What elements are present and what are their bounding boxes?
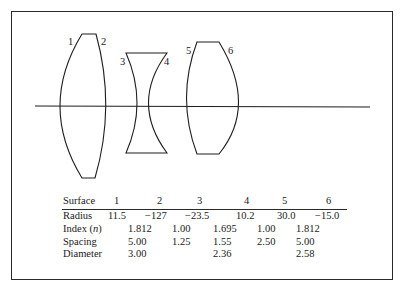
table-cell: 1.00 bbox=[257, 224, 275, 235]
surface-label-3: 3 bbox=[120, 57, 125, 68]
surface-label-5: 5 bbox=[186, 46, 191, 57]
table-cell: 1.812 bbox=[128, 224, 152, 235]
row-label-index: Index (n) bbox=[63, 224, 102, 235]
surface-label-1: 1 bbox=[68, 37, 73, 48]
row-label-diameter: Diameter bbox=[63, 249, 102, 260]
table-cell: 3.00 bbox=[128, 249, 146, 260]
table-header-col: 2 bbox=[157, 196, 162, 207]
table-header-col: 5 bbox=[282, 196, 287, 207]
table-cell: 1.00 bbox=[172, 224, 190, 235]
table-header-label: Surface bbox=[63, 196, 95, 207]
table-cell: 30.0 bbox=[277, 211, 295, 222]
table-cell: 1.695 bbox=[213, 224, 237, 235]
table-cell: 10.2 bbox=[236, 211, 254, 222]
table-header-col: 3 bbox=[197, 196, 202, 207]
table-cell: −23.5 bbox=[185, 211, 209, 222]
table-cell: 2.58 bbox=[296, 249, 314, 260]
surface-label-4: 4 bbox=[164, 57, 169, 68]
table-cell: 2.50 bbox=[257, 237, 275, 248]
table-header-col: 1 bbox=[114, 196, 119, 207]
row-label-radius: Radius bbox=[63, 211, 92, 222]
surface-label-2: 2 bbox=[101, 37, 106, 48]
lens-diagram bbox=[0, 0, 404, 288]
lens-3-biconvex bbox=[187, 42, 239, 154]
table-header-col: 4 bbox=[244, 196, 249, 207]
row-label-spacing: Spacing bbox=[63, 237, 97, 248]
table-header-col: 6 bbox=[326, 196, 331, 207]
table-cell: 1.55 bbox=[213, 237, 231, 248]
table-cell: 5.00 bbox=[296, 237, 314, 248]
lens-2-biconcave bbox=[126, 53, 167, 153]
table-cell: −15.0 bbox=[315, 211, 339, 222]
surface-label-6: 6 bbox=[228, 46, 233, 57]
table-cell: −127 bbox=[145, 211, 167, 222]
table-cell: 5.00 bbox=[128, 237, 146, 248]
table-cell: 1.812 bbox=[296, 224, 320, 235]
table-cell: 11.5 bbox=[108, 211, 126, 222]
table-cell: 1.25 bbox=[172, 237, 190, 248]
optical-axis bbox=[35, 106, 370, 107]
table-cell: 2.36 bbox=[213, 249, 231, 260]
